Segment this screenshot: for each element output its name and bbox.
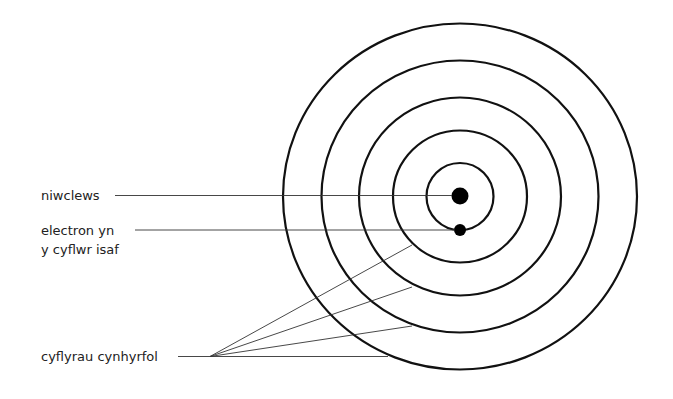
excited-leader-shell-2 [210,245,412,357]
excited-leader-shell-3 [210,287,412,357]
nucleus-label: niwclews [41,188,100,203]
ground-state-label-line1: electron yn [41,223,114,238]
ground-state-label-line2: y cyflwr isaf [41,242,119,257]
ground-state-electron [454,224,466,236]
nucleus [452,188,469,205]
atom-diagram: niwclews electron yn y cyflwr isaf cyfly… [0,0,673,399]
excited-states-label: cyflyrau cynhyrfol [41,349,158,364]
